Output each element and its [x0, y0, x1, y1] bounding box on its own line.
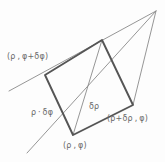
label-edge-radial-length: δρ [89, 103, 99, 111]
ray-outer-radial-line [133, 11, 156, 105]
label-vertex-bottom: (ρ , φ) [63, 142, 87, 150]
ray-lower-radial-line [27, 11, 156, 153]
label-vertex-bottom-right: (ρ+δρ , φ) [107, 115, 148, 123]
figure-canvas [0, 0, 165, 162]
label-edge-arc-length: ρ · δφ [31, 109, 53, 117]
polar-area-element-figure: (ρ , φ+δφ) (ρ , φ) (ρ+δρ , φ) ρ · δφ δρ [0, 0, 165, 162]
label-vertex-upper-left: (ρ , φ+δφ) [7, 53, 48, 61]
